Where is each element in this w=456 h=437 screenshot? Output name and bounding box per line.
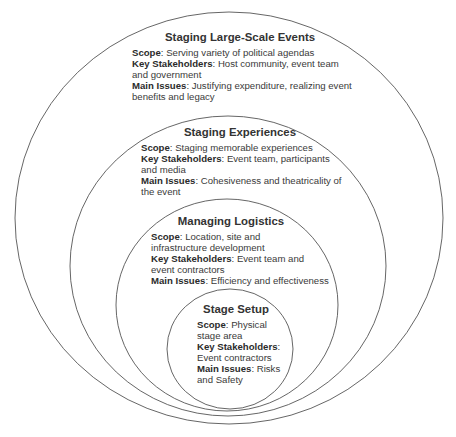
- scope-line: Scope: Serving variety of political agen…: [132, 47, 352, 58]
- scope-line: Scope: Staging memorable experiences: [141, 142, 347, 153]
- layer-title: Staging Large-Scale Events: [128, 32, 352, 43]
- stakeholders-line: Key Stakeholders: Event team and event c…: [151, 253, 306, 275]
- layer-title: Staging Experiences: [133, 127, 347, 138]
- stakeholders-line: Key Stakeholders: Event team, participan…: [141, 153, 347, 175]
- issues-line: Main Issues: Efficiency and effectivenes…: [151, 275, 329, 286]
- issues-line: Main Issues: Justifying expenditure, rea…: [132, 80, 352, 102]
- layer-stage-setup: Stage Setup Scope: Physical stage area K…: [197, 304, 283, 385]
- scope-line: Scope: Physical stage area: [197, 319, 267, 341]
- layer-title: Managing Logistics: [151, 216, 311, 227]
- scope-line: Scope: Location, site and infrastructure…: [151, 231, 269, 253]
- layer-staging-experiences: Staging Experiences Scope: Staging memor…: [141, 127, 347, 197]
- layer-large-scale-events: Staging Large-Scale Events Scope: Servin…: [132, 32, 352, 102]
- stakeholders-line: Key Stakeholders: Event contractors: [197, 341, 283, 363]
- issues-line: Main Issues: Risks and Safety: [197, 363, 281, 385]
- layer-managing-logistics: Managing Logistics Scope: Location, site…: [151, 216, 329, 286]
- stakeholders-line: Key Stakeholders: Host community, event …: [132, 58, 352, 80]
- issues-line: Main Issues: Cohesiveness and theatrical…: [141, 175, 347, 197]
- layer-title: Stage Setup: [191, 304, 281, 315]
